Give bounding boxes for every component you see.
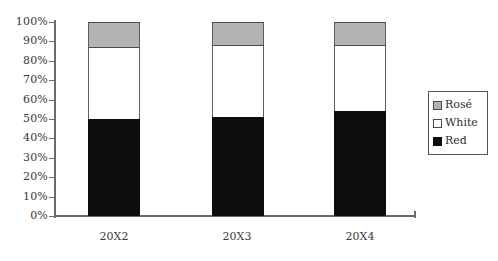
- y-axis-label-60: 60%: [4, 94, 48, 105]
- bar-segment-rose-20X2[interactable]: [88, 22, 140, 47]
- y-axis-label-80: 80%: [4, 55, 48, 66]
- x-axis-label-20X4: 20X4: [315, 231, 405, 243]
- legend-swatch-white-icon: [433, 119, 442, 128]
- y-axis-label-50: 50%: [4, 113, 48, 124]
- y-axis-tick: [49, 216, 55, 217]
- bar-segment-white-20X3[interactable]: [212, 45, 264, 117]
- y-axis-label-20: 20%: [4, 171, 48, 182]
- legend-label-red: Red: [445, 135, 467, 147]
- y-axis-label-30: 30%: [4, 152, 48, 163]
- bar-segment-white-20X4[interactable]: [334, 45, 386, 111]
- legend-label-white: White: [445, 117, 478, 129]
- bar-segment-red-20X4[interactable]: [334, 111, 386, 216]
- legend-swatch-red-icon: [433, 137, 442, 146]
- bar-segment-rose-20X3[interactable]: [212, 22, 264, 45]
- y-axis-label-0: 0%: [4, 210, 48, 221]
- y-axis-label-10: 10%: [4, 191, 48, 202]
- legend-item-red[interactable]: Red: [433, 132, 484, 150]
- bar-segment-red-20X2[interactable]: [88, 119, 140, 216]
- x-axis-label-20X3: 20X3: [192, 231, 282, 243]
- legend-label-rose: Rosé: [445, 99, 472, 111]
- y-axis-label-70: 70%: [4, 74, 48, 85]
- legend-swatch-rose-icon: [433, 101, 442, 110]
- bar-segment-red-20X3[interactable]: [212, 117, 264, 216]
- plot-area: [54, 22, 415, 216]
- y-axis-label-90: 90%: [4, 35, 48, 46]
- legend-item-rose[interactable]: Rosé: [433, 96, 484, 114]
- legend-item-white[interactable]: White: [433, 114, 484, 132]
- bar-segment-white-20X2[interactable]: [88, 47, 140, 119]
- y-axis-label-100: 100%: [4, 16, 48, 27]
- stacked-bar-chart: 100% 90% 80% 70% 60% 50% 40% 30% 20% 10%…: [0, 0, 498, 261]
- x-axis-label-20X2: 20X2: [69, 231, 159, 243]
- y-axis-label-40: 40%: [4, 132, 48, 143]
- chart-legend: Rosé White Red: [428, 91, 488, 155]
- bar-segment-rose-20X4[interactable]: [334, 22, 386, 45]
